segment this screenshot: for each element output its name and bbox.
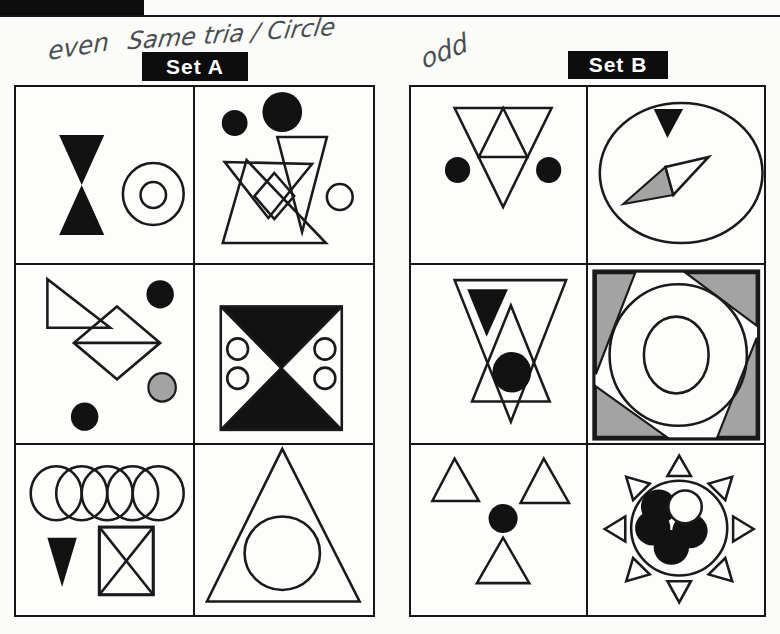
set-a-grid: [14, 85, 375, 617]
overlapping-circle-chain: [31, 466, 184, 520]
black-circles-pair: [221, 92, 301, 136]
set-b-cell-3: [411, 265, 588, 445]
set-b-cell-1: [411, 87, 588, 265]
header-divider-line: [0, 15, 780, 17]
set-b-cell-2: [588, 87, 765, 265]
black-down-triangle: [653, 109, 682, 138]
triangle-with-circle-shape: [206, 449, 359, 602]
set-a-cell-4: [195, 265, 374, 445]
set-b-grid: [409, 85, 766, 617]
overlapping-triangles-cluster: [222, 137, 326, 243]
diamond-with-line-shape: [74, 306, 160, 379]
black-hourglass-shape: [59, 135, 104, 235]
small-outline-circle: [326, 184, 352, 210]
handwritten-note-same-tria-circle: Same tria / Circle: [126, 13, 337, 56]
set-a-cell-2: [195, 87, 374, 265]
two-tone-needle-shape: [623, 157, 708, 204]
set-a-cell-1: [16, 87, 195, 265]
black-circle: [492, 352, 531, 392]
handwritten-note-even: even: [48, 27, 109, 66]
set-a-label: Set A: [142, 52, 248, 81]
gray-circle: [148, 373, 175, 401]
set-b-cell-4: [588, 265, 765, 445]
handwritten-note-odd: odd: [418, 27, 471, 75]
set-b-cell-6: [588, 445, 765, 615]
gray-corner-square-shape: [593, 271, 758, 439]
black-center-circle: [489, 504, 518, 533]
concentric-circles-shape: [123, 163, 184, 225]
black-circle-bottom-left: [71, 403, 98, 431]
black-circle-top-right: [146, 280, 173, 308]
black-circle-right: [536, 157, 561, 183]
sun-core-circles: [631, 481, 727, 576]
set-a-cell-5: [16, 445, 195, 615]
set-a-cell-6: [195, 445, 374, 615]
set-b-cell-5: [411, 445, 588, 615]
black-circle-left: [445, 157, 470, 183]
set-b-label: Set B: [568, 51, 668, 79]
set-a-cell-3: [16, 265, 195, 445]
subdivided-inverted-triangle: [455, 108, 552, 207]
concentric-circles-shape: [609, 284, 746, 426]
black-down-triangle: [47, 538, 76, 587]
crossed-rectangle-shape: [99, 527, 153, 595]
